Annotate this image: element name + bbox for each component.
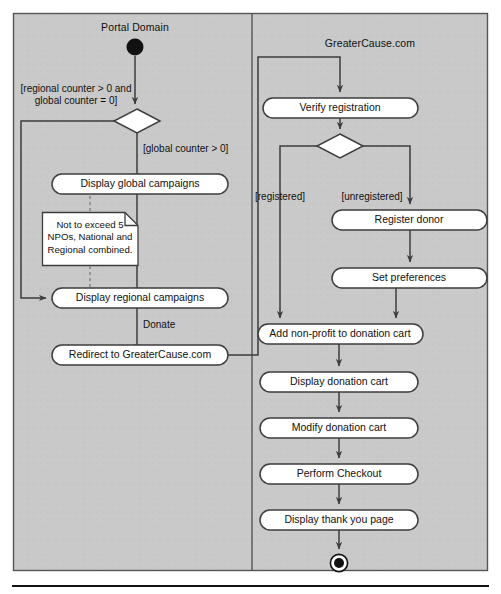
- page-rule-divider: [12, 585, 489, 587]
- swimlane-title-greatercause: GreaterCause.com: [325, 38, 415, 50]
- guard-label-unregistered: [unregistered]: [341, 191, 402, 202]
- initial-node: [127, 39, 144, 56]
- guard-label-regional-counter-line1: [regional counter > 0 and: [21, 83, 132, 94]
- guard-label-registered: [registered]: [255, 191, 305, 202]
- activity-label-verify-registration: Verify registration: [299, 102, 380, 114]
- activity-label-display-regional-campaigns: Display regional campaigns: [76, 292, 204, 304]
- activity-label-display-global-campaigns: Display global campaigns: [80, 178, 199, 190]
- activity-label-perform-checkout: Perform Checkout: [297, 468, 382, 480]
- activity-label-display-donation-cart: Display donation cart: [290, 376, 388, 388]
- activity-label-modify-donation-cart: Modify donation cart: [292, 422, 387, 434]
- guard-label-global-counter: [global counter > 0]: [143, 143, 228, 154]
- note-text-npo-limit: Not to exceed 5 NPOs, National and Regio…: [45, 219, 135, 256]
- activity-label-display-thank-you-page: Display thank you page: [284, 514, 393, 526]
- activity-label-set-preferences: Set preferences: [372, 272, 446, 284]
- guard-label-regional-counter-line2: global counter = 0]: [35, 95, 118, 106]
- activity-label-redirect-to-greatercause: Redirect to GreaterCause.com: [69, 349, 211, 361]
- guard-label-donate: Donate: [143, 319, 175, 330]
- swimlane-title-portal-domain: Portal Domain: [101, 22, 169, 34]
- activity-label-register-donor: Register donor: [375, 214, 444, 226]
- activity-label-add-non-profit-to-donation-cart: Add non-profit to donation cart: [269, 328, 410, 340]
- activity-diagram-canvas: Portal Domain GreaterCause.com Display g…: [0, 0, 501, 594]
- final-node-inner-dot: [334, 558, 344, 568]
